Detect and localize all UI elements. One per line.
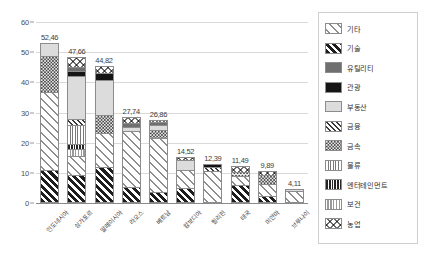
bar-segment-부동산[interactable]	[96, 81, 113, 116]
stacked-bar[interactable]: 52,46	[40, 43, 59, 203]
bar-segment-기타[interactable]	[259, 185, 276, 197]
bar-segment-기술[interactable]	[68, 176, 85, 202]
x-label-slot: 라오스	[118, 205, 145, 257]
bar-segment-기술[interactable]	[177, 189, 194, 202]
bar-segment-기타[interactable]	[204, 172, 221, 202]
bar-total-label: 26,86	[150, 110, 167, 119]
y-tick-mark	[30, 82, 34, 83]
y-tick-mark	[30, 22, 34, 23]
x-axis-label: 태국	[238, 208, 252, 222]
legend-item[interactable]: 유틸리티	[325, 58, 413, 78]
bar-segment-기술[interactable]	[123, 188, 140, 202]
bar-segment-부동산[interactable]	[177, 161, 194, 171]
bar-column[interactable]: 26,86	[145, 22, 172, 203]
bar-segment-기술[interactable]	[150, 193, 167, 202]
bar-segment-농업[interactable]	[96, 67, 113, 75]
stacked-bar[interactable]: 26,86	[149, 120, 168, 203]
bar-segment-보건[interactable]	[68, 150, 85, 157]
bar-segment-물류[interactable]	[68, 126, 85, 145]
bar-column[interactable]: 4,11	[281, 22, 308, 203]
x-label-slot: 싱가포르	[63, 205, 90, 257]
legend-swatch	[325, 23, 342, 34]
legend-item[interactable]: 농업	[325, 214, 413, 234]
bar-segment-금속[interactable]	[96, 116, 113, 133]
legend-swatch	[325, 199, 342, 210]
bar-segment-기타[interactable]	[150, 139, 167, 193]
legend-item[interactable]: 기타	[325, 19, 413, 39]
x-axis-label: 브루나이	[290, 208, 312, 230]
stacked-bar[interactable]: 12,39	[203, 164, 222, 203]
stacked-bar[interactable]: 11,49	[231, 166, 250, 203]
bar-segment-기타[interactable]	[41, 93, 58, 171]
legend-label: 금융	[347, 121, 360, 131]
bar-segment-기술[interactable]	[41, 171, 58, 202]
x-label-slot: 말레이시아	[90, 205, 117, 257]
y-tick-mark	[30, 203, 34, 204]
bar-segment-기타[interactable]	[123, 132, 140, 188]
x-label-slot: 인도네시아	[36, 205, 63, 257]
stacked-bar[interactable]: 47,66	[67, 57, 86, 203]
legend-swatch	[325, 101, 342, 112]
bar-segment-금융[interactable]	[68, 120, 85, 127]
y-tick-label: 20	[21, 138, 29, 147]
legend-label: 물류	[347, 160, 360, 170]
bar-column[interactable]: 44,82	[90, 22, 117, 203]
y-tick-mark	[30, 142, 34, 143]
legend-item[interactable]: 보건	[325, 195, 413, 215]
legend-swatch	[325, 179, 342, 190]
bar-column[interactable]: 12,39	[199, 22, 226, 203]
bar-total-label: 27,74	[123, 107, 140, 116]
legend-item[interactable]: 관광	[325, 78, 413, 98]
x-label-slot: 캄보디아	[172, 205, 199, 257]
bar-segment-기술[interactable]	[96, 168, 113, 202]
stacked-bar[interactable]: 27,74	[122, 117, 141, 203]
bar-segment-금속[interactable]	[41, 57, 58, 93]
bar-total-label: 47,66	[68, 47, 85, 56]
bar-total-label: 44,82	[95, 56, 112, 65]
bar-segment-기타[interactable]	[68, 157, 85, 176]
legend-item[interactable]: 기술	[325, 39, 413, 59]
bar-segment-기술[interactable]	[232, 186, 249, 202]
y-tick-label: 30	[21, 108, 29, 117]
bar-segment-부동산[interactable]	[68, 77, 85, 120]
legend-item[interactable]: 엔터테인먼트	[325, 175, 413, 195]
legend-swatch	[325, 160, 342, 171]
bar-segment-기타[interactable]	[96, 134, 113, 168]
bar-column[interactable]: 11,49	[226, 22, 253, 203]
bar-column[interactable]: 9,89	[254, 22, 281, 203]
bar-column[interactable]: 14,52	[172, 22, 199, 203]
bar-column[interactable]: 27,74	[118, 22, 145, 203]
x-axis-label: 필리핀	[209, 208, 227, 226]
y-tick-mark	[30, 112, 34, 113]
stacked-bar[interactable]: 44,82	[95, 66, 114, 203]
bar-column[interactable]: 47,66	[63, 22, 90, 203]
legend-item[interactable]: 금융	[325, 117, 413, 137]
legend-label: 농업	[347, 219, 360, 229]
legend-swatch	[325, 62, 342, 73]
legend-label: 관광	[347, 82, 360, 92]
bar-column[interactable]: 52,46	[36, 22, 63, 203]
bar-segment-기타[interactable]	[177, 171, 194, 189]
bar-total-label: 14,52	[177, 147, 194, 156]
bar-segment-기타[interactable]	[232, 177, 249, 186]
bar-segment-기술[interactable]	[259, 197, 276, 202]
bar-segment-관광[interactable]	[96, 74, 113, 81]
bar-segment-기타[interactable]	[286, 192, 303, 202]
legend-item[interactable]: 물류	[325, 156, 413, 176]
legend-label: 기타	[347, 24, 360, 34]
stacked-bar[interactable]: 14,52	[176, 157, 195, 203]
legend-item[interactable]: 부동산	[325, 97, 413, 117]
bar-segment-금속[interactable]	[150, 131, 167, 139]
bar-segment-농업[interactable]	[68, 58, 85, 68]
stacked-bar[interactable]: 9,89	[258, 171, 277, 203]
legend-item[interactable]: 금속	[325, 136, 413, 156]
chart-legend: 기타기술유틸리티관광부동산금융금속물류엔터테인먼트보건농업	[318, 12, 418, 244]
x-label-slot: 태국	[226, 205, 253, 257]
bar-segment-금속[interactable]	[259, 176, 276, 185]
legend-swatch	[325, 218, 342, 229]
stacked-bar[interactable]: 4,11	[285, 189, 304, 203]
legend-swatch	[325, 121, 342, 132]
bar-segment-부동산[interactable]	[41, 44, 58, 58]
bar-total-label: 52,46	[41, 33, 58, 42]
x-label-slot: 브루나이	[281, 205, 308, 257]
